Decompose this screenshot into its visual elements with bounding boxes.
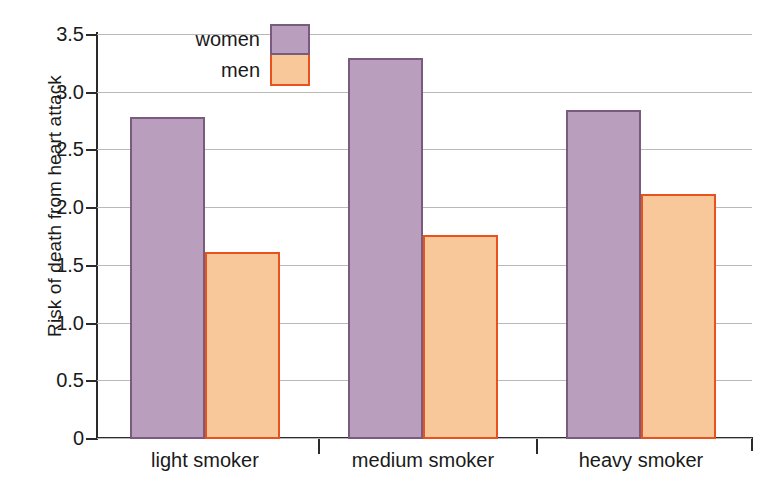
plot-area	[97, 34, 752, 438]
gridline	[97, 92, 752, 93]
legend-label-women: women	[178, 28, 270, 51]
bar-women-medium-smoker	[348, 58, 423, 439]
chart-legend: women men	[178, 24, 310, 86]
bar-women-heavy-smoker	[566, 110, 641, 439]
x-axis-end-cap	[751, 437, 753, 451]
bar-men-medium-smoker	[423, 235, 498, 439]
x-axis-label-medium-smoker: medium smoker	[352, 449, 494, 472]
y-axis-tick-label: 3.5	[0, 23, 84, 46]
x-axis-group-tick	[318, 439, 320, 454]
legend-label-men: men	[178, 59, 270, 82]
y-axis-tick-label: 0	[0, 427, 84, 450]
legend-item-women[interactable]: women	[178, 24, 310, 55]
legend-swatch-men	[270, 55, 310, 86]
x-axis-group-tick	[536, 439, 538, 454]
legend-item-men[interactable]: men	[178, 55, 310, 86]
y-axis-tick-label: 2.0	[0, 196, 84, 219]
y-axis-tick-label: 3.0	[0, 80, 84, 103]
chart-figure: Risk of death from heart attack 00.51.01…	[0, 0, 767, 483]
y-axis-tick-label: 1.0	[0, 311, 84, 334]
bar-men-heavy-smoker	[641, 194, 716, 439]
bar-men-light-smoker	[205, 252, 280, 439]
y-axis-tick-label: 1.5	[0, 253, 84, 276]
legend-swatch-women	[270, 24, 310, 55]
x-axis-label-heavy-smoker: heavy smoker	[579, 449, 704, 472]
y-axis-tick-label: 0.5	[0, 369, 84, 392]
x-axis-label-light-smoker: light smoker	[151, 449, 259, 472]
y-axis-tick-label: 2.5	[0, 138, 84, 161]
bar-women-light-smoker	[130, 117, 205, 439]
